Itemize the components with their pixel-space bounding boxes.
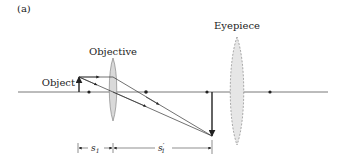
microscope-ray-diagram: (a) Objective Eyepiece Object s1 bbox=[0, 0, 342, 165]
focal-point-eyepiece-left bbox=[205, 90, 208, 93]
focal-point-eyepiece-right bbox=[268, 90, 271, 93]
eyepiece-label: Eyepiece bbox=[214, 20, 260, 31]
focal-point-objective-left bbox=[87, 90, 90, 93]
s1-prime-label: s′1 bbox=[158, 142, 165, 154]
focal-point-objective-right bbox=[144, 90, 148, 94]
eyepiece-lens bbox=[230, 37, 244, 145]
object-label: Object bbox=[42, 77, 75, 88]
light-rays bbox=[79, 77, 212, 136]
objective-label: Objective bbox=[89, 46, 137, 57]
s1-label: s1 bbox=[91, 143, 99, 154]
objective-lens bbox=[109, 58, 117, 121]
panel-label: (a) bbox=[17, 3, 31, 14]
